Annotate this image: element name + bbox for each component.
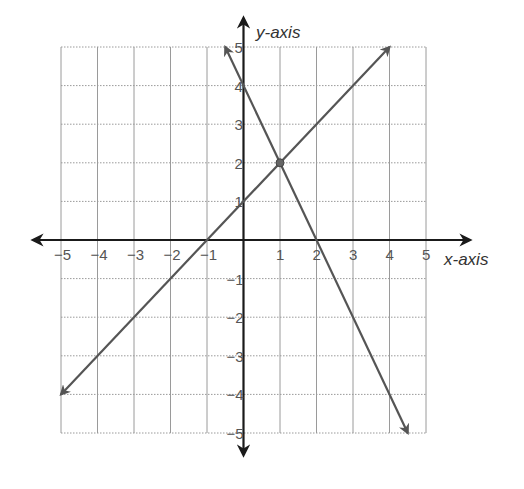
line-series-1 bbox=[61, 47, 390, 394]
x-tick-label: −4 bbox=[91, 246, 108, 263]
y-tick-label: 3 bbox=[235, 116, 243, 133]
x-tick-label: 5 bbox=[422, 246, 430, 263]
y-tick-label: −5 bbox=[227, 425, 244, 442]
y-tick-label: −3 bbox=[227, 348, 244, 365]
x-tick-label: −2 bbox=[164, 246, 181, 263]
y-tick-label: 5 bbox=[235, 39, 243, 56]
y-axis-label: y-axis bbox=[255, 23, 301, 42]
x-tick-label: −5 bbox=[54, 246, 71, 263]
coordinate-plane: −5−4−3−2−11234554321−1−2−3−4−5 x-axis y-… bbox=[0, 0, 524, 489]
axes bbox=[33, 18, 470, 455]
intersection-point bbox=[276, 159, 284, 167]
y-tick-label: −1 bbox=[227, 271, 244, 288]
x-tick-label: 4 bbox=[386, 246, 394, 263]
y-tick-label: 2 bbox=[235, 155, 243, 172]
y-tick-label: −4 bbox=[227, 386, 244, 403]
x-tick-label: 1 bbox=[276, 246, 284, 263]
x-tick-label: −1 bbox=[200, 246, 217, 263]
x-axis-label: x-axis bbox=[443, 250, 489, 269]
x-tick-label: −3 bbox=[127, 246, 144, 263]
x-tick-label: 3 bbox=[349, 246, 357, 263]
y-tick-label: −2 bbox=[227, 309, 244, 326]
